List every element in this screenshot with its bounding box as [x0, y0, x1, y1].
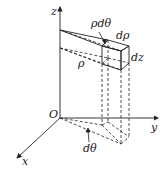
origin-label: O [49, 109, 58, 120]
dz-label: dz [131, 52, 144, 63]
z-axis-label: z [51, 6, 57, 17]
x-axis-label: x [22, 156, 28, 167]
rho-label: ρ [78, 58, 84, 69]
drho-label: dρ [116, 30, 130, 41]
rho-dtheta-label: ρdθ [91, 18, 111, 29]
dtheta-label: dθ [83, 143, 97, 154]
cylindrical-volume-element-diagram: z y x O ρdθ dρ dz ρ dθ [0, 0, 167, 176]
volume-element-side-face [121, 46, 129, 70]
y-axis-label: y [151, 122, 157, 133]
x-axis [17, 118, 60, 158]
